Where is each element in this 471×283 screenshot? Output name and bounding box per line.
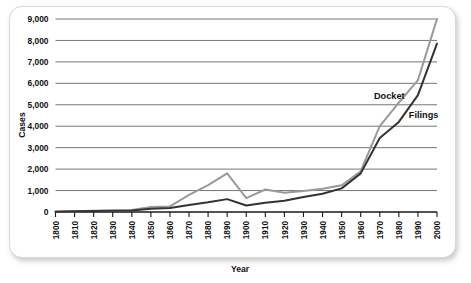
x-axis-tick-label: 1810 [71,221,80,240]
x-axis-tick-label: 2000 [433,221,442,240]
x-axis-tick-label: 1950 [338,221,347,240]
chart-canvas: 01,0002,0003,0004,0005,0006,0007,0008,00… [0,0,471,283]
y-axis-title: Cases [17,112,27,138]
x-axis-tick-label: 1980 [395,221,404,240]
y-axis-tick-label: 3,000 [28,143,49,153]
x-axis-tick-label: 1820 [90,221,99,240]
series-annotations: DocketFilings [374,91,438,119]
y-axis-tick-label: 0 [44,207,49,217]
x-axis-tick-marks [56,212,438,217]
x-axis-tick-label: 1830 [109,221,118,240]
x-axis-tick-label: 1920 [281,221,290,240]
x-axis-tick-label: 1960 [357,221,366,240]
x-axis-tick-label: 1900 [242,221,251,240]
y-axis-tick-label: 2,000 [28,164,49,174]
y-axis-tick-label: 7,000 [28,57,49,67]
series-label-filings: Filings [409,110,439,120]
gridlines [56,19,438,212]
y-axis-tick-label: 5,000 [28,100,49,110]
x-axis-tick-label: 1850 [147,221,156,240]
y-axis-tick-label: 8,000 [28,36,49,46]
y-axis-tick-labels: 01,0002,0003,0004,0005,0006,0007,0008,00… [28,14,49,217]
x-axis-tick-label: 1970 [376,221,385,240]
x-axis-tick-label: 1890 [223,221,232,240]
x-axis-tick-label: 1990 [414,221,423,240]
x-axis-title: Year [231,264,250,274]
x-axis-tick-label: 1930 [300,221,309,240]
x-axis-tick-label: 1910 [261,221,270,240]
x-axis-tick-label: 1860 [166,221,175,240]
x-axis-tick-label: 1870 [185,221,194,240]
x-axis-tick-label: 1840 [128,221,137,240]
y-axis-tick-label: 9,000 [28,14,49,24]
y-axis-tick-label: 1,000 [28,186,49,196]
x-axis-tick-label: 1880 [204,221,213,240]
y-axis-tick-label: 4,000 [28,121,49,131]
series-label-docket: Docket [374,91,405,101]
data-series [56,19,438,212]
series-line-docket [56,19,438,212]
line-chart: 01,0002,0003,0004,0005,0006,0007,0008,00… [0,0,471,283]
y-axis-tick-label: 6,000 [28,78,49,88]
x-axis-tick-label: 1940 [319,221,328,240]
x-axis-tick-label: 1800 [52,221,61,240]
x-axis-tick-labels: 1800181018201830184018501860187018801890… [52,221,443,240]
